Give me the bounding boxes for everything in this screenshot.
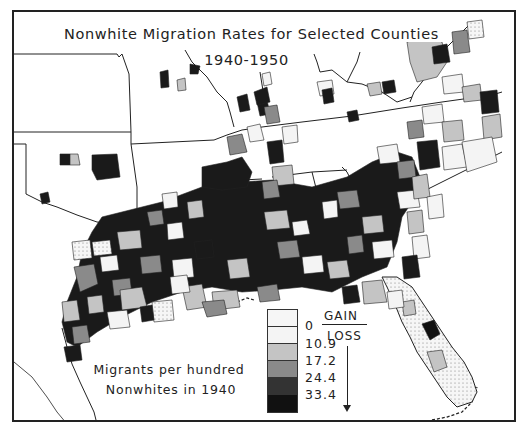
legend-swatch-0-10.9 (267, 326, 298, 344)
note-line2: Nonwhites in 1940 (86, 382, 256, 397)
arrow-down-icon (343, 405, 351, 412)
legend-swatch-over-33.4 (267, 394, 298, 413)
gulf-coast-dashed (237, 298, 254, 302)
legend-divider (322, 324, 367, 325)
legend-gain-label: GAIN (324, 309, 358, 323)
legend-swatch-gain (267, 309, 298, 327)
legend-break-33.4: 33.4 (305, 387, 337, 402)
legend-loss-label: LOSS (327, 329, 362, 343)
map-subtitle-years: 1940-1950 (189, 52, 304, 68)
map-frame: Nonwhite Migration Rates for Selected Co… (12, 10, 516, 422)
legend-swatch-24.4-33.4 (267, 377, 298, 395)
note-line1: Migrants per hundred (84, 362, 254, 377)
legend-swatch-17.2-24.4 (267, 360, 298, 378)
isolated-counties (40, 64, 200, 204)
choropleth-map (14, 12, 516, 422)
map-title: Nonwhite Migration Rates for Selected Co… (59, 26, 444, 42)
legend-break-0: 0 (305, 318, 314, 333)
legend-break-24.4: 24.4 (305, 370, 337, 385)
legend-swatch-10.9-17.2 (267, 343, 298, 361)
legend-break-17.2: 17.2 (305, 353, 337, 368)
legend-loss-arrow-shaft (347, 346, 348, 408)
